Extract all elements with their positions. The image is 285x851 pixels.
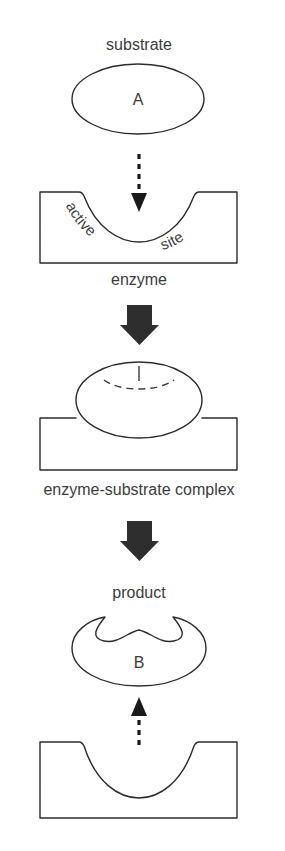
enzyme-diagram-canvas: substrate A active site enzyme (0, 0, 285, 851)
arrow-head-down-icon (131, 193, 147, 212)
product-release-arrow (131, 697, 147, 745)
free-enzyme-block-shape (40, 742, 237, 818)
substrate-letter-a: A (133, 91, 144, 108)
complex-label: enzyme-substrate complex (43, 481, 234, 498)
product-shape (72, 617, 206, 686)
reaction-arrow-2-icon (120, 521, 159, 561)
reaction-arrow-1-icon (120, 305, 159, 345)
product-label: product (112, 584, 166, 601)
product-letter-b: B (134, 654, 145, 671)
substrate-binding-arrow (131, 154, 147, 212)
arrow-head-up-icon (131, 697, 147, 716)
enzyme-label: enzyme (111, 271, 167, 288)
substrate-label: substrate (106, 36, 172, 53)
enzyme-reaction-diagram: substrate A active site enzyme (0, 0, 285, 851)
